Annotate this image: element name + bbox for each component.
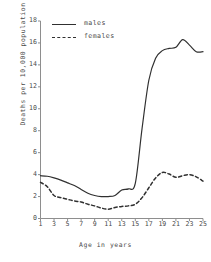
line-chart: Deaths per 10,000 population 02468101214… xyxy=(0,0,211,262)
x-axis-tick-label: 13 xyxy=(118,221,126,228)
x-axis-tick-label: 15 xyxy=(131,221,139,228)
x-axis-title: Age in years xyxy=(0,241,211,249)
data-series-layer xyxy=(41,40,204,210)
x-axis-tick-labels: 135791113151719212325 xyxy=(0,221,211,233)
axis-lines xyxy=(41,21,204,219)
x-axis-tick-label: 5 xyxy=(66,221,70,228)
x-axis-tick-label: 23 xyxy=(185,221,193,228)
series-line-males xyxy=(41,40,204,197)
x-axis-tick-label: 3 xyxy=(52,221,56,228)
x-axis-tick-label: 9 xyxy=(93,221,97,228)
legend-swatch-solid-line xyxy=(52,24,76,25)
legend-label: males xyxy=(84,19,106,27)
x-axis-tick-label: 1 xyxy=(39,221,43,228)
x-axis-tick-label: 17 xyxy=(145,221,153,228)
series-line-females xyxy=(41,172,204,209)
x-axis-tick-label: 11 xyxy=(104,221,112,228)
x-axis-tick-label: 7 xyxy=(79,221,83,228)
x-axis-tick-label: 19 xyxy=(158,221,166,228)
x-axis-tick-label: 25 xyxy=(199,221,207,228)
legend-label: females xyxy=(84,32,115,40)
legend-swatch-dashed-line xyxy=(52,37,76,38)
x-axis-tick-label: 21 xyxy=(172,221,180,228)
